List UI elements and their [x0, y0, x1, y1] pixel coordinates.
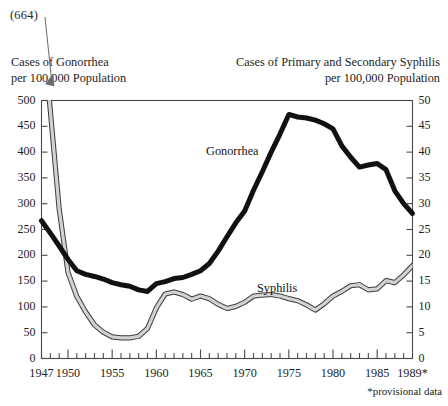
axis-ticks [42, 101, 413, 359]
right-tick-label-40: 40 [419, 144, 431, 159]
left-tick-label-300: 300 [18, 196, 36, 211]
series-lines [42, 16, 413, 338]
left-tick-label-200: 200 [18, 247, 36, 262]
chart-canvas [0, 0, 448, 406]
x-tick-label-1980: 1980 [312, 366, 354, 381]
left-tick-label-150: 150 [18, 273, 36, 288]
right-tick-label-15: 15 [419, 273, 431, 288]
x-tick-label-1965: 1965 [180, 366, 222, 381]
x-tick-label-1960: 1960 [135, 366, 177, 381]
x-tick-label-1975: 1975 [268, 366, 310, 381]
right-tick-label-20: 20 [419, 247, 431, 262]
left-tick-label-50: 50 [24, 325, 36, 340]
right-tick-label-35: 35 [419, 170, 431, 185]
x-tick-label-1950: 1950 [47, 366, 89, 381]
right-tick-label-45: 45 [419, 118, 431, 133]
left-tick-label-500: 500 [18, 93, 36, 108]
right-tick-label-5: 5 [419, 325, 425, 340]
right-tick-label-30: 30 [419, 196, 431, 211]
std-rates-chart: (664) Cases of Gonorrhea per 100,000 Pop… [0, 0, 448, 406]
left-tick-label-400: 400 [18, 144, 36, 159]
left-tick-label-100: 100 [18, 299, 36, 314]
plot-frame [42, 101, 413, 359]
right-tick-label-10: 10 [419, 299, 431, 314]
right-tick-label-25: 25 [419, 222, 431, 237]
series-label-syphilis: Syphilis [257, 281, 297, 296]
provisional-data-footnote: *provisional data [367, 385, 442, 397]
right-tick-label-0: 0 [419, 351, 425, 366]
left-tick-label-450: 450 [18, 118, 36, 133]
left-tick-label-350: 350 [18, 170, 36, 185]
series-label-gonorrhea: Gonorrhea [206, 144, 259, 159]
left-tick-label-0: 0 [30, 351, 36, 366]
x-tick-label-1955: 1955 [91, 366, 133, 381]
left-tick-label-250: 250 [18, 222, 36, 237]
right-tick-label-50: 50 [419, 93, 431, 108]
annotation-arrow [45, 17, 54, 86]
x-tick-label-1989: 1989* [392, 366, 434, 381]
x-tick-label-1970: 1970 [224, 366, 266, 381]
